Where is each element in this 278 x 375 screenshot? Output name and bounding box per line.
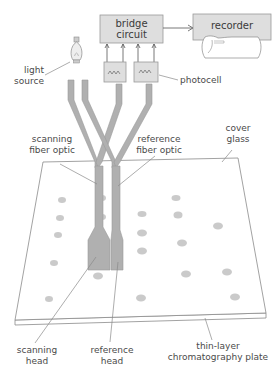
spot xyxy=(136,295,146,302)
recorder-paper-chart xyxy=(202,36,261,58)
spot xyxy=(230,294,240,301)
spot xyxy=(222,269,232,276)
recorder-label: recorder xyxy=(211,20,254,31)
spot xyxy=(54,232,62,238)
label-light-source-1: light xyxy=(24,65,44,75)
label-reference-head-1: reference xyxy=(91,345,134,355)
bridge-circuit-label-line2: circuit xyxy=(116,29,147,40)
spot xyxy=(50,260,58,266)
spot xyxy=(93,273,103,280)
spot xyxy=(172,195,181,201)
spot xyxy=(137,248,147,255)
spot xyxy=(56,215,64,221)
spot xyxy=(213,223,223,230)
spot xyxy=(45,296,53,302)
signal-arrows xyxy=(105,44,156,62)
label-tlc-plate-1: thin-layer xyxy=(196,341,240,351)
photocell-left xyxy=(104,62,126,82)
label-cover-glass-2: glass xyxy=(226,134,249,144)
label-tlc-plate-2: chromatography plate xyxy=(168,352,269,362)
spot xyxy=(137,230,147,237)
spot xyxy=(177,240,187,247)
label-scanning-fiber-1: scanning xyxy=(32,134,72,144)
label-scanning-fiber-2: fiber optic xyxy=(29,145,75,155)
tlc-densitometer-diagram: bridge circuit recorder xyxy=(0,0,278,375)
leader-light-source xyxy=(45,62,70,75)
label-scanning-head-1: scanning xyxy=(17,345,57,355)
label-light-source-2: source xyxy=(14,76,44,86)
label-scanning-head-2: head xyxy=(26,356,48,366)
photocell-right xyxy=(134,62,158,82)
leader-tlc-plate xyxy=(205,318,212,340)
light-bulb-icon xyxy=(71,37,82,63)
label-photocell: photocell xyxy=(180,75,221,85)
bridge-circuit-label-line1: bridge xyxy=(115,18,147,29)
spot xyxy=(58,197,66,203)
bridge-circuit-box: bridge circuit xyxy=(100,15,163,43)
label-reference-head-2: head xyxy=(101,356,123,366)
leader-photocell xyxy=(159,75,178,80)
spot xyxy=(138,211,147,217)
label-reference-fiber-2: fiber optic xyxy=(136,145,182,155)
label-cover-glass-1: cover xyxy=(225,123,250,133)
arrow-to-recorder xyxy=(163,25,193,31)
recorder-box: recorder xyxy=(193,14,271,58)
spot xyxy=(174,212,183,219)
spot xyxy=(181,271,191,278)
label-reference-fiber-1: reference xyxy=(138,134,181,144)
